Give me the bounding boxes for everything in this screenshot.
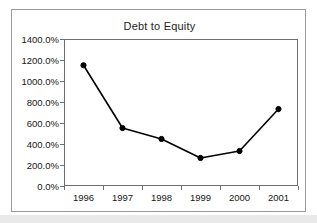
- series-markers: [81, 63, 281, 161]
- x-tick-label: 1998: [151, 192, 172, 203]
- x-tick-mark: [259, 186, 260, 190]
- y-tick-label: 0.0%: [37, 181, 59, 192]
- data-point-1998: [159, 136, 164, 141]
- y-tick-label: 1200.0%: [21, 55, 59, 66]
- y-tick-mark: [60, 165, 64, 166]
- y-tick-label: 800.0%: [27, 97, 59, 108]
- y-tick-label: 200.0%: [27, 160, 59, 171]
- x-tick-label: 1997: [112, 192, 133, 203]
- series-line-debt-to-equity: [84, 65, 279, 158]
- y-tick-mark: [60, 102, 64, 103]
- y-tick-label: 600.0%: [27, 118, 59, 129]
- data-point-2001: [276, 106, 281, 111]
- y-tick-label: 400.0%: [27, 139, 59, 150]
- x-tick-mark: [220, 186, 221, 190]
- x-tick-mark: [298, 186, 299, 190]
- y-tick-label: 1400.0%: [21, 34, 59, 45]
- y-tick-mark: [60, 39, 64, 40]
- y-tick-mark: [60, 81, 64, 82]
- y-tick-mark: [60, 123, 64, 124]
- x-tick-label: 1996: [73, 192, 94, 203]
- series-layer: [64, 39, 298, 186]
- x-tick-label: 2001: [268, 192, 289, 203]
- x-tick-label: 2000: [229, 192, 250, 203]
- y-tick-label: 1000.0%: [21, 76, 59, 87]
- x-axis-labels: 199619971998199920002001: [64, 192, 298, 210]
- x-tick-mark: [64, 186, 65, 190]
- chart-object-frame: Debt to Equity 0.0%200.0%400.0%600.0%800…: [11, 9, 306, 212]
- y-axis-labels: 0.0%200.0%400.0%600.0%800.0%1000.0%1200.…: [12, 10, 64, 215]
- data-point-1997: [120, 125, 125, 130]
- y-tick-mark: [60, 60, 64, 61]
- page-bottom-band: [0, 215, 317, 223]
- x-tick-mark: [181, 186, 182, 190]
- x-tick-label: 1999: [190, 192, 211, 203]
- x-tick-mark: [142, 186, 143, 190]
- x-tick-mark: [103, 186, 104, 190]
- data-point-1996: [81, 63, 86, 68]
- data-point-2000: [237, 148, 242, 153]
- chart-page: Debt to Equity 0.0%200.0%400.0%600.0%800…: [0, 0, 317, 223]
- y-tick-mark: [60, 144, 64, 145]
- data-point-1999: [198, 155, 203, 160]
